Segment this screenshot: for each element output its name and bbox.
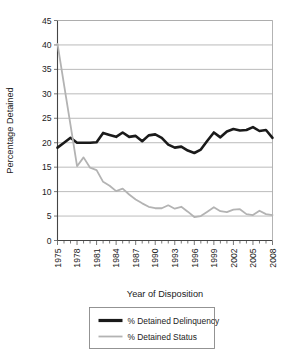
x-tick-label: 1996 (190, 248, 200, 267)
legend: % Detained Delinquency% Detained Status (90, 308, 221, 349)
y-tick-label: 10 (42, 187, 52, 197)
gridlines-group (58, 21, 273, 217)
x-tick-label: 1990 (150, 248, 160, 267)
y-tick-label: 35 (42, 64, 52, 74)
legend-label-1: % Detained Delinquency (128, 316, 221, 326)
y-axis-tick-labels: 051015202530354045 (42, 16, 58, 246)
series-line-1 (58, 127, 273, 153)
y-axis-title: Percentage Detained (5, 87, 15, 173)
y-tick-label: 0 (47, 236, 52, 246)
x-tick-label: 1984 (111, 248, 121, 267)
x-tick-label: 2008 (268, 248, 278, 267)
x-tick-label: 1987 (131, 248, 141, 267)
x-axis-ticks (58, 241, 273, 246)
data-series-group (58, 44, 273, 217)
chart-figure: 051015202530354045 197519781981198419871… (0, 0, 290, 357)
y-tick-label: 30 (42, 89, 52, 99)
x-tick-label: 1975 (53, 248, 63, 267)
x-tick-label: 2002 (229, 248, 239, 267)
y-tick-label: 25 (42, 113, 52, 123)
line-chart: 051015202530354045 197519781981198419871… (0, 0, 290, 357)
x-tick-label: 2005 (248, 248, 258, 267)
x-tick-label: 1999 (209, 248, 219, 267)
x-axis-title: Year of Disposition (127, 289, 203, 299)
legend-box (90, 308, 215, 349)
legend-label-2: % Detained Status (128, 332, 197, 342)
x-tick-label: 1981 (92, 248, 102, 267)
y-tick-label: 45 (42, 16, 52, 26)
x-tick-label: 1993 (170, 248, 180, 267)
y-tick-label: 5 (47, 211, 52, 221)
y-tick-label: 15 (42, 162, 52, 172)
x-axis-tick-labels: 1975197819811984198719901993199619992002… (53, 248, 278, 267)
y-tick-label: 20 (42, 138, 52, 148)
y-tick-label: 40 (42, 40, 52, 50)
x-tick-label: 1978 (72, 248, 82, 267)
